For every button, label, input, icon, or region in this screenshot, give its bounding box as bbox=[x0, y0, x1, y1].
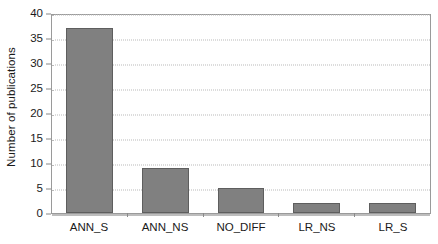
x-axis-tick-label: LR_NS bbox=[279, 220, 355, 238]
axis-baseline bbox=[52, 215, 430, 216]
bar[interactable] bbox=[293, 203, 340, 213]
x-axis-tick-mark bbox=[127, 213, 128, 217]
bar[interactable] bbox=[142, 168, 189, 213]
y-axis-tick-label: 40 bbox=[30, 8, 43, 20]
x-axis-tick-label: ANN_S bbox=[51, 220, 127, 238]
x-axis-tick-label: LR_S bbox=[355, 220, 431, 238]
y-axis-tick-label: 5 bbox=[37, 183, 43, 195]
y-axis-tick-label: 35 bbox=[30, 33, 43, 45]
y-axis-title: Number of publications bbox=[0, 0, 22, 214]
y-axis-title-label: Number of publications bbox=[5, 47, 17, 167]
y-axis-tick-label: 0 bbox=[37, 208, 43, 220]
bar[interactable] bbox=[369, 203, 416, 213]
bars-group bbox=[52, 15, 430, 213]
bar[interactable] bbox=[66, 28, 113, 213]
bar-chart: Number of publications 0510152025303540 … bbox=[0, 0, 438, 244]
plot-area bbox=[51, 14, 431, 214]
y-axis-tick-label: 20 bbox=[30, 108, 43, 120]
x-axis-tick-mark bbox=[203, 213, 204, 217]
bar-slot bbox=[354, 15, 430, 213]
y-axis-tick-label: 10 bbox=[30, 158, 43, 170]
y-axis-tick-label: 15 bbox=[30, 133, 43, 145]
y-axis-tick-label: 25 bbox=[30, 83, 43, 95]
bar-slot bbox=[203, 15, 279, 213]
x-axis-tick-label: ANN_NS bbox=[127, 220, 203, 238]
bar-slot bbox=[52, 15, 128, 213]
y-axis-tick-label: 30 bbox=[30, 58, 43, 70]
bar-slot bbox=[128, 15, 204, 213]
x-axis-tick-label: NO_DIFF bbox=[203, 220, 279, 238]
x-axis-tick-mark bbox=[278, 213, 279, 217]
x-axis-tick-labels: ANN_SANN_NSNO_DIFFLR_NSLR_S bbox=[51, 220, 431, 238]
bar-slot bbox=[279, 15, 355, 213]
y-axis-tick-labels: 0510152025303540 bbox=[22, 14, 46, 214]
bar[interactable] bbox=[218, 188, 265, 213]
x-axis-tick-mark bbox=[354, 213, 355, 217]
